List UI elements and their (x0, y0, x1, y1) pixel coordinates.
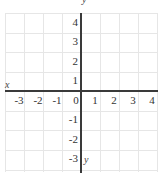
x-tick-label: 2 (105, 95, 123, 106)
y-tick-label: -3 (64, 153, 78, 164)
grid-line-vertical (24, 13, 25, 172)
x-axis-label: x (5, 80, 9, 90)
x-tick-label: 3 (124, 95, 142, 106)
y-tick-label: 3 (64, 36, 78, 47)
grid-line-vertical (119, 13, 120, 172)
y-tick-label: -2 (64, 134, 78, 145)
x-tick-label: 4 (143, 95, 158, 106)
x-tick-label: -1 (48, 95, 66, 106)
x-tick-label: 1 (86, 95, 104, 106)
y-tick-label: 2 (64, 56, 78, 67)
y-tick-label: 4 (64, 17, 78, 28)
grid-line-vertical (157, 13, 158, 172)
x-tick-label: -3 (10, 95, 28, 106)
grid-line-vertical (138, 13, 139, 172)
y-axis-label-top: y (82, 0, 86, 5)
y-tick-label: 1 (64, 75, 78, 86)
coordinate-plane: y 4 3 2 1 x -3 -2 -1 0 1 2 3 4 -1 -2 -3 … (0, 0, 158, 176)
grid-line-vertical (62, 13, 63, 172)
y-axis-label: y (84, 155, 88, 165)
grid-line-vertical (5, 13, 6, 172)
y-tick-label: -1 (64, 114, 78, 125)
x-tick-label: 0 (67, 95, 85, 106)
x-tick-label: -2 (29, 95, 47, 106)
grid-line-vertical (43, 13, 44, 172)
grid-line-vertical (100, 13, 101, 172)
y-axis (80, 13, 82, 173)
